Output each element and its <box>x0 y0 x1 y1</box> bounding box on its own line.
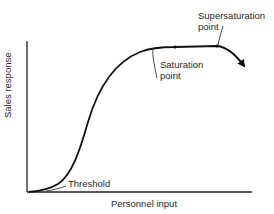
saturation-label-line1: Saturation <box>160 59 203 70</box>
saturation-leader <box>153 48 157 78</box>
supersaturation-label-line2: point <box>198 21 265 32</box>
saturation-label: Saturation point <box>160 59 203 81</box>
diagram-canvas <box>0 0 274 214</box>
saturation-point-marker <box>173 45 176 48</box>
saturation-label-line2: point <box>160 70 203 81</box>
supersaturation-label: Supersaturation point <box>198 10 265 32</box>
x-axis-label: Personnel input <box>111 198 177 209</box>
y-axis-label: Sales response <box>2 53 13 118</box>
sales-response-curve <box>29 46 244 192</box>
threshold-label: Threshold <box>68 178 110 189</box>
supersaturation-label-line1: Supersaturation <box>198 10 265 21</box>
